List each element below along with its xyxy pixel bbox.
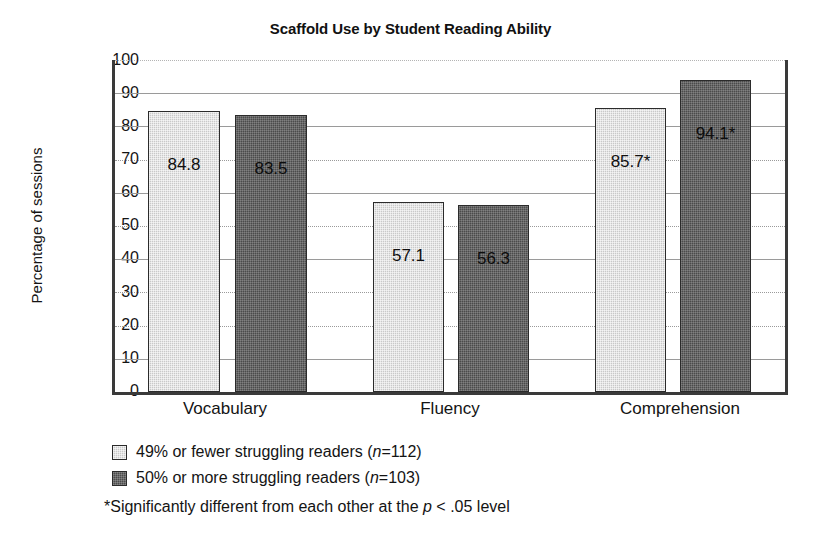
gridline-100 bbox=[115, 60, 785, 61]
y-axis-title: Percentage of sessions bbox=[28, 106, 45, 346]
bar-chart-figure: Scaffold Use by Student Reading Ability … bbox=[0, 0, 821, 549]
legend-swatch-light-icon bbox=[112, 445, 127, 460]
bar-value-comprehension-dark: 94.1* bbox=[681, 125, 750, 142]
bar-value-fluency-light: 57.1 bbox=[374, 247, 443, 264]
x-category-label-fluency: Fluency bbox=[390, 399, 510, 419]
legend-label-dark-prefix: 50% or more struggling readers ( bbox=[136, 469, 370, 486]
chart-title: Scaffold Use by Student Reading Ability bbox=[0, 20, 821, 37]
bar-vocabulary-light[interactable]: 84.8 bbox=[148, 111, 220, 393]
legend-label-light: 49% or fewer struggling readers (n=112) bbox=[136, 443, 422, 461]
legend-label-dark-suffix: =103) bbox=[379, 469, 420, 486]
footnote-italic-p: p bbox=[423, 498, 432, 515]
legend-label-light-suffix: =112) bbox=[381, 443, 421, 460]
bar-fluency-dark[interactable]: 56.3 bbox=[458, 205, 529, 392]
footnote-suffix: < .05 level bbox=[432, 498, 510, 515]
bar-comprehension-dark[interactable]: 94.1* bbox=[680, 80, 751, 392]
bar-fluency-light[interactable]: 57.1 bbox=[373, 202, 444, 392]
bar-comprehension-light[interactable]: 85.7* bbox=[595, 108, 666, 393]
legend-label-dark-italic: n bbox=[370, 469, 379, 486]
x-category-label-comprehension: Comprehension bbox=[605, 399, 755, 419]
bar-value-comprehension-light: 85.7* bbox=[596, 153, 665, 170]
footnote-prefix: *Significantly different from each other… bbox=[104, 498, 423, 515]
x-category-label-vocabulary: Vocabulary bbox=[165, 399, 285, 419]
legend-label-light-prefix: 49% or fewer struggling readers ( bbox=[136, 443, 373, 460]
legend-swatch-dark-icon bbox=[112, 471, 127, 486]
legend-item-light[interactable]: 49% or fewer struggling readers (n=112) bbox=[112, 440, 712, 464]
bar-value-fluency-dark: 56.3 bbox=[459, 250, 528, 267]
significance-footnote: *Significantly different from each other… bbox=[104, 498, 510, 516]
bar-value-vocabulary-dark: 83.5 bbox=[236, 160, 306, 177]
bar-vocabulary-dark[interactable]: 83.5 bbox=[235, 115, 307, 392]
legend-label-dark: 50% or more struggling readers (n=103) bbox=[136, 469, 420, 487]
chart-legend: 49% or fewer struggling readers (n=112) … bbox=[112, 440, 712, 492]
legend-item-dark[interactable]: 50% or more struggling readers (n=103) bbox=[112, 466, 712, 490]
bar-value-vocabulary-light: 84.8 bbox=[149, 156, 219, 173]
plot-area: 84.8 83.5 57.1 56.3 85.7* 94.1* bbox=[112, 60, 788, 395]
